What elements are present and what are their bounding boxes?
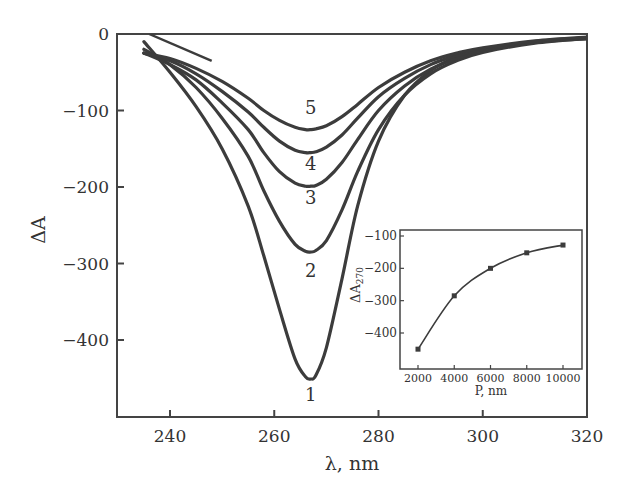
main-x-tick-label: 280 (362, 426, 394, 446)
inset-y-axis-ticks: −100−200−300−400 (364, 229, 404, 340)
main-x-tick-label: 240 (154, 426, 186, 446)
spectrum-curve-4 (144, 38, 587, 153)
inset-y-axis-label: ΔA270 (348, 267, 365, 303)
main-x-tick-label: 260 (258, 426, 290, 446)
inset-y-label-main: ΔA (348, 284, 363, 303)
inset-plot: −100−200−300−400 200040006000800010000 P… (348, 229, 582, 398)
main-y-tick-label: −300 (62, 254, 109, 274)
inset-x-tick-label: 4000 (440, 372, 468, 385)
inset-y-label-sub: 270 (355, 267, 365, 284)
inset-data-point (416, 347, 421, 352)
chart-figure: 0−100−200−300−400 240260280300320 12345 … (0, 0, 631, 495)
inset-y-tick-label: −300 (364, 294, 397, 308)
curve-label-1: 1 (305, 384, 316, 405)
curve-label-2: 2 (305, 260, 316, 281)
main-x-tick-label: 300 (467, 426, 499, 446)
main-y-tick-label: 0 (98, 24, 109, 44)
inset-x-tick-label: 8000 (513, 372, 541, 385)
inset-y-tick-label: −100 (364, 229, 397, 243)
inset-x-axis-label: P, nm (475, 384, 508, 398)
curve-label-4: 4 (305, 153, 316, 174)
main-x-axis-ticks: 240260280300320 (154, 410, 603, 446)
spectrum-curve-2 (144, 39, 587, 253)
main-y-axis-label: ΔA (27, 216, 49, 244)
inset-data-point (452, 293, 457, 298)
main-y-tick-label: −100 (62, 101, 109, 121)
inset-data-point (524, 250, 529, 255)
inset-background (400, 230, 582, 369)
inset-y-tick-label: −400 (364, 326, 397, 340)
inset-y-tick-label: −200 (364, 261, 397, 275)
curve-label-3: 3 (305, 187, 316, 208)
main-y-tick-label: −200 (62, 177, 109, 197)
inset-x-tick-label: 10000 (546, 372, 581, 385)
main-y-axis-ticks: 0−100−200−300−400 (62, 24, 124, 350)
main-x-tick-label: 320 (571, 426, 603, 446)
main-y-tick-label: −400 (62, 330, 109, 350)
main-x-axis-label: λ, nm (325, 452, 379, 474)
inset-data-point (561, 243, 566, 248)
inset-data-point (488, 266, 493, 271)
curve-label-5: 5 (305, 97, 316, 118)
inset-x-tick-label: 2000 (404, 372, 432, 385)
